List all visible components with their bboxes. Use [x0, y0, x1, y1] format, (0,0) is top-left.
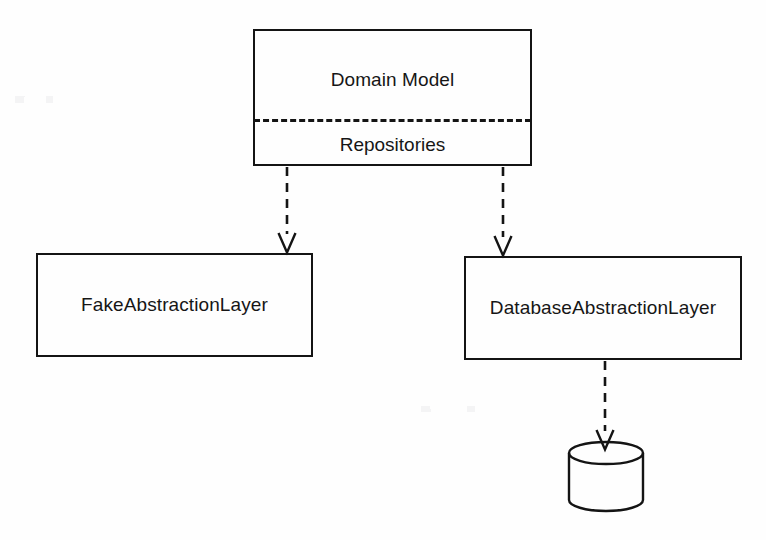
open-arrowhead: [279, 233, 296, 253]
node-label-repositories: Repositories: [253, 135, 532, 154]
node-label-database-abstraction-layer: DatabaseAbstractionLayer: [464, 298, 742, 317]
open-arrowhead: [495, 236, 512, 256]
edge-database-layer-to-store: [597, 361, 614, 450]
domain-model-compartment-separator: [254, 119, 531, 122]
open-arrowhead: [597, 430, 614, 450]
node-label-domain-model: Domain Model: [253, 70, 532, 89]
node-label-fake-abstraction-layer: FakeAbstractionLayer: [36, 295, 313, 314]
uml-diagram-canvas: Domain Model Repositories FakeAbstractio…: [0, 0, 766, 540]
edge-repositories-to-database-layer: [495, 167, 512, 256]
database-cylinder-shape: [569, 442, 643, 511]
edge-repositories-to-fake-layer: [279, 167, 296, 253]
